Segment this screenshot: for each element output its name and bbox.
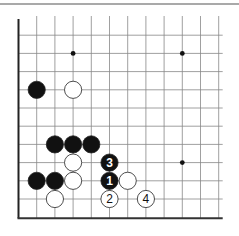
white-stone-2: 2 xyxy=(101,190,118,207)
hoshi-point xyxy=(180,160,185,165)
black-stone xyxy=(83,136,100,153)
move-number: 3 xyxy=(106,156,113,170)
black-stone xyxy=(46,172,63,189)
black-stone xyxy=(28,81,45,98)
move-number: 2 xyxy=(106,192,113,206)
white-stone xyxy=(65,81,82,98)
go-board-diagram: 3124 xyxy=(0,0,239,236)
white-stone xyxy=(119,172,136,189)
hoshi-point xyxy=(71,51,76,56)
board-grid xyxy=(18,16,223,218)
move-number: 4 xyxy=(143,192,150,206)
white-stone xyxy=(65,154,82,171)
white-stone-4: 4 xyxy=(137,190,154,207)
black-stone-3: 3 xyxy=(101,154,118,171)
black-stone xyxy=(46,136,63,153)
move-number: 1 xyxy=(106,174,113,188)
white-stone xyxy=(46,190,63,207)
black-stone-1: 1 xyxy=(101,172,118,189)
hoshi-point xyxy=(180,51,185,56)
black-stone xyxy=(28,172,45,189)
black-stone xyxy=(65,136,82,153)
white-stone xyxy=(65,172,82,189)
